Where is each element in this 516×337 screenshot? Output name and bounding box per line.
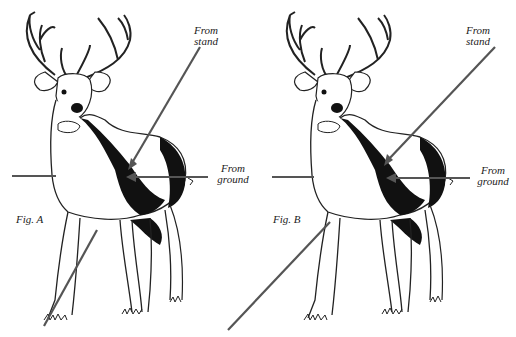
from-stand-arrow-b xyxy=(388,47,495,160)
figure-caption-b: Fig. B xyxy=(273,213,301,225)
exit-line-lower-b xyxy=(228,222,330,330)
label-from-stand-a: From stand xyxy=(186,25,226,47)
label-from-stand-b: From stand xyxy=(458,25,498,47)
deer-illustration-b xyxy=(287,12,453,320)
label-text: stand xyxy=(458,36,498,47)
exit-line-lower-a xyxy=(44,230,97,326)
illustration-canvas xyxy=(0,0,516,337)
deer-illustration-a xyxy=(27,12,193,320)
figure-caption-a: Fig. A xyxy=(16,213,43,225)
label-from-ground-b: From ground xyxy=(470,165,516,187)
label-from-ground-a: From ground xyxy=(210,163,256,185)
label-text: ground xyxy=(470,176,516,187)
label-text: ground xyxy=(210,174,256,185)
label-text: stand xyxy=(186,36,226,47)
